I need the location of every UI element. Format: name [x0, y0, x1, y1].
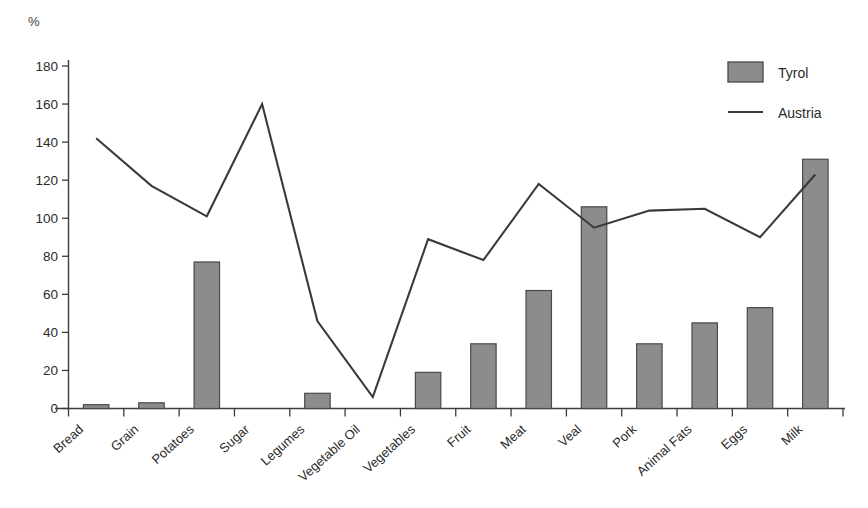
- x-axis-tick-label: Grain: [108, 422, 142, 454]
- y-axis-tick-label: 120: [35, 173, 58, 188]
- x-axis-tick-label: Meat: [497, 421, 529, 452]
- legend: Tyrol Austria: [728, 62, 822, 121]
- y-axis-tick-label: 60: [43, 287, 58, 302]
- bar-series-tyrol: [83, 159, 828, 408]
- chart-container: % 020406080100120140160180 BreadGrainPot…: [0, 0, 868, 508]
- x-axis-tick-label: Fruit: [444, 421, 474, 450]
- x-axis-tick-label: Eggs: [718, 421, 750, 452]
- y-axis-tick-label: 80: [43, 249, 58, 264]
- x-axis-tick-label: Animal Fats: [634, 421, 695, 478]
- x-axis-tick-label: Pork: [609, 421, 639, 450]
- bar-veal: [581, 207, 606, 409]
- x-axis-tick-label: Milk: [778, 421, 806, 448]
- y-axis-tick-label: 160: [35, 97, 58, 112]
- y-axis-tick-label: 100: [35, 211, 58, 226]
- x-axis-tick-label: Legumes: [258, 421, 308, 468]
- x-axis-tick-label: Sugar: [216, 421, 252, 456]
- bar-legumes: [305, 393, 330, 408]
- y-axis-tick-label: 20: [43, 363, 58, 378]
- legend-label-austria: Austria: [778, 105, 822, 121]
- bar-milk: [803, 159, 828, 408]
- y-axis-tick-marks: [62, 66, 69, 409]
- bar-bread: [83, 405, 108, 409]
- x-axis-tick-labels: BreadGrainPotatoesSugarLegumesVegetable …: [50, 421, 805, 484]
- x-axis-tick-label: Potatoes: [149, 421, 198, 467]
- chart-plot-area: 020406080100120140160180 BreadGrainPotat…: [0, 0, 868, 508]
- y-axis-tick-label: 40: [43, 325, 58, 340]
- bar-meat: [526, 291, 551, 409]
- bar-grain: [139, 403, 164, 409]
- legend-swatch-tyrol: [728, 62, 763, 82]
- bar-animal-fats: [692, 323, 717, 409]
- bar-vegetables: [415, 372, 440, 408]
- bar-pork: [637, 344, 662, 409]
- y-axis-tick-label: 140: [35, 135, 58, 150]
- y-axis-tick-labels: 020406080100120140160180: [35, 59, 58, 417]
- bar-potatoes: [194, 262, 219, 409]
- x-axis-tick-label: Veal: [555, 422, 584, 450]
- x-axis-tick-marks: [69, 409, 844, 417]
- legend-label-tyrol: Tyrol: [778, 65, 808, 81]
- y-axis-tick-label: 180: [35, 59, 58, 74]
- x-axis-tick-label: Vegetables: [360, 421, 418, 476]
- x-axis-tick-label: Bread: [50, 422, 86, 456]
- bar-fruit: [471, 344, 496, 409]
- bar-eggs: [747, 308, 772, 409]
